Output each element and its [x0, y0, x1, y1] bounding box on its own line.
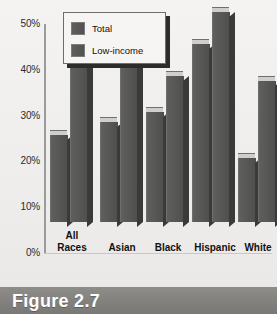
- bar-hispanic-total: [192, 44, 209, 222]
- bar-asian-total: [100, 122, 117, 222]
- legend-swatch-total: [71, 22, 85, 35]
- bar-front-face: [258, 81, 276, 222]
- bar-front-face: [192, 44, 210, 222]
- bar-hispanic-low-income: [212, 12, 229, 222]
- bar-front-face: [120, 53, 138, 222]
- y-tick-30: 30%: [0, 110, 40, 122]
- figure-caption-label: Figure 2.7: [12, 291, 100, 312]
- x-tick-white: White: [236, 242, 277, 254]
- legend-label-low-income: Low-income: [92, 45, 143, 56]
- figure-caption-bar: Figure 2.7: [0, 287, 277, 314]
- bar-front-face: [212, 12, 230, 222]
- legend-item-low-income: Low-income: [71, 42, 143, 58]
- bar-all-races-total: [50, 135, 67, 222]
- y-tick-label: 10%: [6, 201, 40, 212]
- bar-front-face: [100, 122, 118, 222]
- y-tick-label: 30%: [6, 110, 40, 121]
- x-axis-baseline: [44, 253, 272, 254]
- y-axis-line: [44, 24, 46, 254]
- bar-top-face: [192, 39, 209, 44]
- bar-black-total: [146, 112, 163, 222]
- x-tick-asian: Asian: [96, 242, 148, 254]
- bar-side-face: [229, 12, 235, 227]
- bar-top-face: [238, 153, 255, 158]
- chart-plot-area: 0% 10% 20% 30% 40% 50%: [0, 0, 277, 283]
- x-tick-all-races: All Races: [46, 230, 98, 253]
- bar-all-races-low-income: [70, 58, 87, 222]
- bar-front-face: [166, 76, 184, 222]
- bar-white-total: [238, 158, 255, 222]
- bar-side-face: [275, 81, 277, 227]
- bar-asian-low-income: [120, 53, 137, 222]
- bar-top-face: [166, 71, 183, 76]
- bar-front-face: [50, 135, 68, 222]
- bar-top-face: [146, 107, 163, 112]
- y-tick-10: 10%: [0, 201, 40, 213]
- bar-top-face: [50, 130, 67, 135]
- bar-front-face: [70, 58, 88, 222]
- bar-top-face: [212, 7, 229, 12]
- y-tick-50: 50%: [0, 18, 40, 30]
- y-tick-0: 0%: [0, 247, 40, 259]
- bar-front-face: [238, 158, 256, 222]
- bar-black-low-income: [166, 76, 183, 222]
- y-tick-label: 50%: [6, 18, 40, 29]
- figure-container: 0% 10% 20% 30% 40% 50%: [0, 0, 277, 314]
- y-tick-label: 20%: [6, 155, 40, 166]
- legend-label-total: Total: [92, 23, 112, 34]
- bar-top-face: [258, 76, 275, 81]
- bar-top-face: [100, 117, 117, 122]
- y-tick-20: 20%: [0, 155, 40, 167]
- y-tick-40: 40%: [0, 64, 40, 76]
- legend-item-total: Total: [71, 20, 112, 36]
- bar-white-low-income: [258, 81, 275, 222]
- chart-legend: Total Low-income: [63, 12, 166, 64]
- bar-side-face: [183, 76, 189, 227]
- y-tick-label: 0%: [6, 247, 40, 258]
- bar-front-face: [146, 112, 164, 222]
- legend-swatch-low-income: [71, 44, 85, 57]
- bar-side-face: [87, 58, 93, 227]
- y-tick-label: 40%: [6, 64, 40, 75]
- bar-side-face: [137, 53, 143, 227]
